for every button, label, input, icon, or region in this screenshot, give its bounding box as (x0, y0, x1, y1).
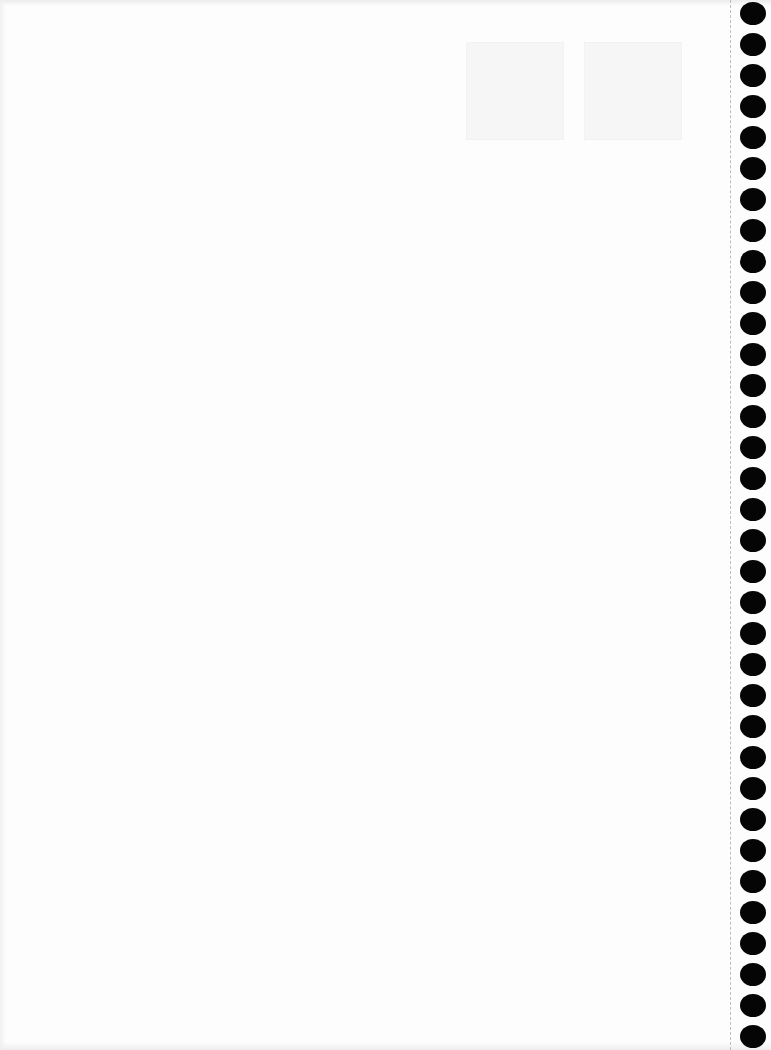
binding-hole (740, 684, 766, 707)
binding-hole (740, 374, 766, 397)
binding-hole (740, 870, 766, 893)
binding-hole (740, 498, 766, 521)
binding-hole (740, 994, 766, 1017)
binding-hole (740, 281, 766, 304)
binding-hole (740, 839, 766, 862)
binding-hole (740, 95, 766, 118)
binding-hole (740, 591, 766, 614)
binding-hole (740, 2, 766, 25)
bleed-through-image-left (466, 42, 564, 140)
binding-hole (740, 64, 766, 87)
binding-hole (740, 157, 766, 180)
binding-hole (740, 436, 766, 459)
binding-hole (740, 653, 766, 676)
binding-hole (740, 126, 766, 149)
binding-hole (740, 901, 766, 924)
binding-hole (740, 622, 766, 645)
binding-hole (740, 746, 766, 769)
page-left-edge-shadow (0, 0, 6, 1050)
notebook-page (0, 0, 771, 1050)
binding-hole (740, 467, 766, 490)
perforation-line (730, 0, 731, 1050)
binding-hole (740, 777, 766, 800)
binding-hole (740, 932, 766, 955)
binding-hole (740, 343, 766, 366)
binding-hole (740, 33, 766, 56)
binding-hole (740, 529, 766, 552)
binding-hole (740, 188, 766, 211)
spiral-binding-holes (740, 0, 771, 1050)
binding-hole (740, 963, 766, 986)
page-bottom-edge-shadow (0, 1042, 771, 1050)
binding-hole (740, 219, 766, 242)
bleed-through-image-right (584, 42, 682, 140)
binding-hole (740, 808, 766, 831)
binding-hole (740, 715, 766, 738)
binding-hole (740, 1025, 766, 1048)
binding-hole (740, 560, 766, 583)
binding-hole (740, 312, 766, 335)
binding-hole (740, 250, 766, 273)
binding-hole (740, 405, 766, 428)
page-top-edge-shadow (0, 0, 771, 6)
